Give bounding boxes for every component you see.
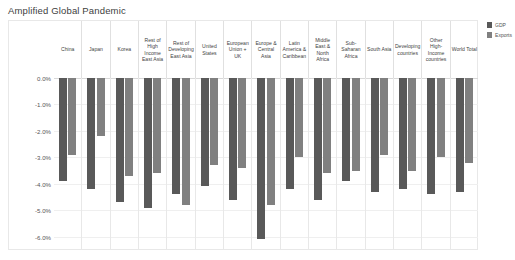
y-tick-label-2: -2.0% xyxy=(9,127,51,134)
category-label-13: Other High-Income countries xyxy=(422,21,450,78)
category-label-8: Latin America & Caribbean xyxy=(281,21,309,78)
category-label-text: Developing countries xyxy=(395,43,421,56)
legend-label: GDP xyxy=(495,22,506,28)
category-label-text: Latin America & Caribbean xyxy=(282,40,307,59)
bar-group-4 xyxy=(167,78,195,250)
legend-item-exports[interactable]: Exports xyxy=(487,32,512,38)
bar-group-11 xyxy=(366,78,394,250)
category-label-5: United States xyxy=(196,21,224,78)
bar-gdp-13[interactable] xyxy=(427,78,435,194)
y-tick-label-5: -5.0% xyxy=(9,207,51,214)
category-label-text: European Union + UK xyxy=(225,40,250,59)
bar-exports-13[interactable] xyxy=(437,78,445,157)
plot-area: ChinaJapanKoreaRest of High Income East … xyxy=(8,20,478,250)
category-label-9: Middle East & North Africa xyxy=(309,21,337,78)
legend-label: Exports xyxy=(495,32,512,38)
bar-group-14 xyxy=(451,78,478,250)
bar-gdp-11[interactable] xyxy=(371,78,379,192)
bar-group-13 xyxy=(422,78,450,250)
category-label-7: Europe & Central Asia xyxy=(252,21,280,78)
bar-group-1 xyxy=(82,78,110,250)
category-label-6: European Union + UK xyxy=(224,21,252,78)
category-label-text: China xyxy=(61,46,74,52)
bar-gdp-3[interactable] xyxy=(144,78,152,208)
page-title: Amplified Global Pandemic xyxy=(8,5,126,16)
category-label-0: China xyxy=(54,21,82,78)
y-tick-label-6: -6.0% xyxy=(9,233,51,240)
bar-exports-12[interactable] xyxy=(408,78,416,171)
bar-gdp-6[interactable] xyxy=(229,78,237,200)
bar-gdp-10[interactable] xyxy=(342,78,350,181)
category-label-text: Korea xyxy=(117,46,131,52)
bar-group-12 xyxy=(394,78,422,250)
bar-gdp-1[interactable] xyxy=(87,78,95,189)
bar-exports-11[interactable] xyxy=(380,78,388,155)
y-tick-label-0: 0.0% xyxy=(9,75,51,82)
chart-container: Amplified Global Pandemic ChinaJapanKore… xyxy=(0,0,515,260)
y-tick-label-1: -1.0% xyxy=(9,101,51,108)
bar-gdp-12[interactable] xyxy=(399,78,407,189)
category-label-text: Rest of Developing East Asia xyxy=(168,40,193,59)
y-tick-label-3: -3.0% xyxy=(9,154,51,161)
category-label-text: Middle East & North Africa xyxy=(310,37,335,63)
category-label-text: World Total xyxy=(452,46,477,52)
bar-group-3 xyxy=(139,78,167,250)
bar-gdp-4[interactable] xyxy=(172,78,180,194)
bar-exports-5[interactable] xyxy=(210,78,218,165)
category-label-1: Japan xyxy=(82,21,110,78)
category-label-text: Europe & Central Asia xyxy=(253,40,278,59)
category-label-11: South Asia xyxy=(366,21,394,78)
category-label-4: Rest of Developing East Asia xyxy=(167,21,195,78)
category-label-12: Developing countries xyxy=(394,21,423,78)
bar-group-5 xyxy=(196,78,224,250)
bar-gdp-8[interactable] xyxy=(286,78,294,189)
bar-group-9 xyxy=(309,78,337,250)
bar-exports-3[interactable] xyxy=(153,78,161,173)
category-label-text: Japan xyxy=(89,46,103,52)
category-label-band: ChinaJapanKoreaRest of High Income East … xyxy=(54,21,478,78)
bar-gdp-5[interactable] xyxy=(201,78,209,186)
bar-gdp-9[interactable] xyxy=(314,78,322,200)
legend-swatch-icon xyxy=(487,32,493,38)
legend-swatch-icon xyxy=(487,22,493,28)
category-label-text: United States xyxy=(197,43,222,56)
bar-exports-2[interactable] xyxy=(125,78,133,176)
bar-exports-10[interactable] xyxy=(352,78,360,171)
bar-exports-1[interactable] xyxy=(97,78,105,136)
chart-legend: GDPExports xyxy=(487,22,512,38)
bar-group-8 xyxy=(281,78,309,250)
category-label-10: Sub-Saharan Africa xyxy=(337,21,365,78)
bar-group-2 xyxy=(111,78,139,250)
bar-gdp-7[interactable] xyxy=(257,78,265,239)
bar-exports-14[interactable] xyxy=(465,78,473,163)
category-label-text: South Asia xyxy=(367,46,391,52)
category-label-text: Sub-Saharan Africa xyxy=(338,40,363,59)
bars-region xyxy=(54,78,478,250)
category-label-2: Korea xyxy=(111,21,139,78)
category-label-text: Other High-Income countries xyxy=(423,37,448,63)
bar-exports-4[interactable] xyxy=(182,78,190,205)
bar-exports-0[interactable] xyxy=(68,78,76,155)
axis-area: 0.0%-1.0%-2.0%-3.0%-4.0%-5.0%-6.0% xyxy=(9,78,478,250)
category-label-3: Rest of High Income East Asia xyxy=(139,21,167,78)
bar-group-10 xyxy=(337,78,365,250)
bar-exports-8[interactable] xyxy=(295,78,303,157)
y-tick-label-4: -4.0% xyxy=(9,180,51,187)
bar-group-0 xyxy=(54,78,82,250)
bar-gdp-14[interactable] xyxy=(456,78,464,192)
bar-group-6 xyxy=(224,78,252,250)
bar-exports-9[interactable] xyxy=(323,78,331,173)
legend-item-gdp[interactable]: GDP xyxy=(487,22,512,28)
bar-group-7 xyxy=(252,78,280,250)
bar-gdp-2[interactable] xyxy=(116,78,124,202)
category-label-14: World Total xyxy=(451,21,478,78)
bar-gdp-0[interactable] xyxy=(59,78,67,181)
bar-exports-7[interactable] xyxy=(267,78,275,205)
bar-exports-6[interactable] xyxy=(238,78,246,168)
category-label-text: Rest of High Income East Asia xyxy=(140,37,165,63)
